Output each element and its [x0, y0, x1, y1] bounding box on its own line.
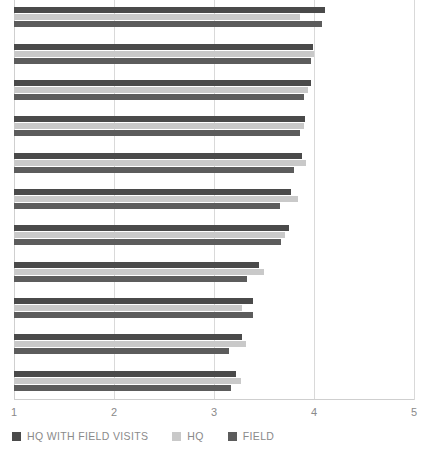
bar-hq: [14, 14, 300, 20]
bar-field: [14, 130, 300, 136]
legend-item[interactable]: HQ: [172, 430, 203, 442]
bar-field: [14, 94, 304, 100]
bar-field: [14, 312, 253, 318]
bar-field: [14, 276, 247, 282]
legend-swatch-icon: [172, 432, 181, 441]
x-tick-label: 4: [311, 406, 317, 418]
bar-chart: 12345 HQ WITH FIELD VISITSHQFIELD: [0, 0, 424, 449]
bar-group: [14, 80, 414, 100]
bar-field: [14, 385, 231, 391]
legend-label: FIELD: [243, 430, 275, 442]
bar-hq-with-field-visits: [14, 116, 305, 122]
bar-group: [14, 116, 414, 136]
bar-group: [14, 225, 414, 245]
bar-group: [14, 44, 414, 64]
x-axis: 12345: [0, 400, 424, 426]
bar-group: [14, 262, 414, 282]
bar-hq: [14, 341, 246, 347]
bar-hq-with-field-visits: [14, 153, 302, 159]
legend-label: HQ: [187, 430, 203, 442]
bar-group: [14, 189, 414, 209]
bar-hq-with-field-visits: [14, 371, 236, 377]
bar-field: [14, 239, 281, 245]
bar-group: [14, 153, 414, 173]
bar-group: [14, 7, 414, 27]
bar-field: [14, 203, 280, 209]
bar-hq-with-field-visits: [14, 44, 313, 50]
legend-swatch-icon: [12, 432, 21, 441]
bar-hq: [14, 232, 285, 238]
bar-hq: [14, 123, 304, 129]
bar-hq: [14, 87, 308, 93]
bar-field: [14, 21, 322, 27]
bar-field: [14, 58, 311, 64]
bar-hq-with-field-visits: [14, 262, 259, 268]
bar-hq-with-field-visits: [14, 334, 242, 340]
bar-hq-with-field-visits: [14, 189, 291, 195]
legend-swatch-icon: [228, 432, 237, 441]
x-tick-label: 3: [211, 406, 217, 418]
bar-hq-with-field-visits: [14, 7, 325, 13]
legend-item[interactable]: HQ WITH FIELD VISITS: [12, 430, 148, 442]
bar-hq: [14, 51, 314, 57]
x-tick-label: 2: [111, 406, 117, 418]
legend-label: HQ WITH FIELD VISITS: [27, 430, 148, 442]
bar-group: [14, 334, 414, 354]
bar-hq-with-field-visits: [14, 298, 253, 304]
bar-hq-with-field-visits: [14, 80, 311, 86]
bar-hq: [14, 196, 298, 202]
bar-field: [14, 348, 229, 354]
bar-group: [14, 298, 414, 318]
bar-field: [14, 167, 294, 173]
bar-hq-with-field-visits: [14, 225, 289, 231]
x-tick-label: 5: [411, 406, 417, 418]
bar-hq: [14, 378, 241, 384]
bar-hq: [14, 269, 264, 275]
chart-legend: HQ WITH FIELD VISITSHQFIELD: [12, 430, 298, 442]
gridline-x-5: [414, 0, 415, 400]
bar-hq: [14, 305, 242, 311]
bar-hq: [14, 160, 306, 166]
bar-group: [14, 371, 414, 391]
bar-groups: [14, 0, 414, 400]
legend-item[interactable]: FIELD: [228, 430, 275, 442]
plot-area: [14, 0, 414, 400]
x-tick-label: 1: [11, 406, 17, 418]
